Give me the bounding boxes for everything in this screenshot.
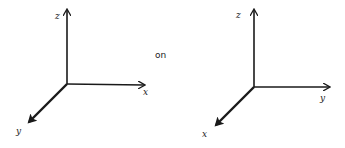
- left-y-label: y: [16, 127, 21, 136]
- left-y-axis: [29, 84, 67, 122]
- right-y-label: y: [320, 94, 325, 103]
- left-z-label: z: [55, 12, 60, 21]
- right-x-label: x: [202, 130, 207, 139]
- right-axes: [216, 10, 329, 125]
- right-z-label: z: [236, 11, 241, 20]
- left-x-axis: [67, 84, 144, 85]
- connector-word: on: [155, 51, 166, 60]
- axes-diagram: [0, 0, 345, 148]
- right-x-axis: [216, 87, 254, 125]
- left-x-label: x: [143, 88, 148, 97]
- left-axes: [29, 10, 144, 122]
